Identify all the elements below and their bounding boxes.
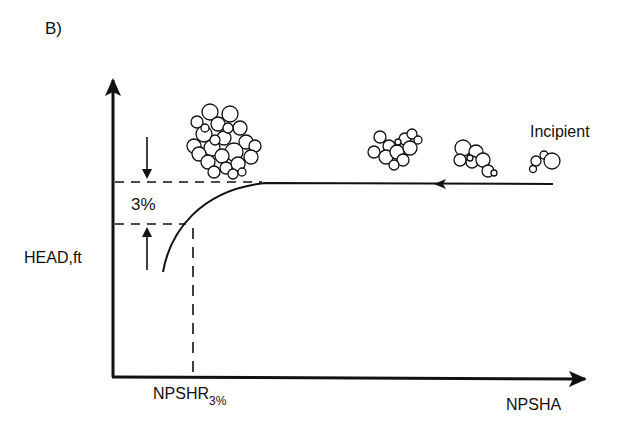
npshr-label-subscript: 3% bbox=[209, 394, 226, 408]
y-axis-label: HEAD,ft bbox=[24, 250, 82, 266]
incipient-label: Incipient bbox=[530, 124, 590, 140]
panel-label: B) bbox=[45, 20, 62, 37]
head-curve bbox=[163, 183, 553, 272]
x-axis-label: NPSHA bbox=[506, 397, 561, 413]
npshr-label: NPSHR3% bbox=[153, 386, 226, 407]
bubble-cluster-incipient bbox=[530, 151, 561, 173]
bubble-cluster-small bbox=[454, 140, 497, 177]
bubble-cluster-medium bbox=[368, 129, 422, 170]
diagram-canvas bbox=[0, 0, 643, 431]
drop-percent-label: 3% bbox=[131, 196, 156, 213]
x-axis bbox=[112, 377, 585, 379]
bubble-cluster-large bbox=[187, 104, 261, 179]
npshr-label-main: NPSHR bbox=[153, 385, 209, 402]
